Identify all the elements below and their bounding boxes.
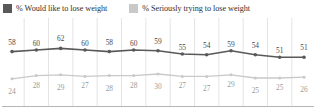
data-point-marker[interactable] [35, 48, 39, 52]
data-label: 60 [130, 40, 137, 48]
data-label: 51 [276, 47, 283, 55]
series-line-seriously-trying [11, 73, 306, 81]
line-chart-widget: % Would like to lose weight % Seriously … [0, 0, 316, 109]
data-point-marker[interactable] [59, 47, 63, 51]
data-label: 58 [106, 39, 113, 47]
data-point-marker[interactable] [230, 73, 233, 76]
data-point-marker[interactable] [278, 77, 281, 80]
data-label: 30 [154, 83, 161, 91]
data-point-marker[interactable] [132, 74, 135, 77]
chart-canvas [0, 18, 316, 109]
data-label: 58 [8, 39, 15, 47]
legend-swatch-icon [129, 4, 138, 13]
plot-area: 58606260586059555459545151 2428292728283… [0, 18, 316, 109]
data-point-marker[interactable] [84, 75, 87, 78]
data-label: 25 [276, 84, 283, 92]
data-point-marker[interactable] [11, 77, 14, 80]
data-label: 27 [81, 82, 88, 90]
data-label: 28 [33, 82, 40, 90]
data-label: 27 [203, 85, 210, 93]
data-label: 29 [57, 84, 64, 92]
data-point-marker[interactable] [181, 75, 184, 78]
data-label: 60 [33, 40, 40, 48]
data-point-marker[interactable] [303, 76, 306, 79]
data-label: 27 [179, 82, 186, 90]
legend-item-would-like[interactable]: % Would like to lose weight [3, 0, 107, 16]
data-label: 28 [106, 85, 113, 93]
data-point-marker[interactable] [205, 75, 208, 78]
data-point-marker[interactable] [35, 74, 38, 77]
data-label: 60 [81, 40, 88, 48]
data-point-marker[interactable] [156, 49, 160, 53]
data-point-marker[interactable] [254, 77, 257, 80]
data-point-marker[interactable] [59, 73, 62, 76]
data-label: 29 [227, 81, 234, 89]
data-point-marker[interactable] [229, 49, 233, 53]
data-label: 26 [300, 86, 307, 94]
data-point-marker[interactable] [108, 50, 112, 54]
data-label: 24 [8, 88, 15, 96]
data-label: 25 [252, 87, 259, 95]
data-label: 55 [179, 44, 186, 52]
legend-swatch-icon [3, 4, 12, 13]
data-label: 62 [57, 35, 64, 43]
data-label: 28 [130, 82, 137, 90]
legend-item-label: % Would like to lose weight [16, 4, 107, 13]
data-point-marker[interactable] [302, 55, 306, 59]
data-point-marker[interactable] [157, 73, 160, 76]
data-point-marker[interactable] [132, 48, 136, 52]
data-label: 54 [203, 42, 210, 50]
series-line-would-like [10, 47, 306, 59]
data-label: 59 [227, 41, 234, 49]
legend-item-label: % Seriously trying to lose weight [142, 4, 250, 13]
data-point-marker[interactable] [181, 52, 185, 56]
data-point-marker[interactable] [108, 74, 111, 77]
data-point-marker[interactable] [254, 53, 258, 57]
chart-legend: % Would like to lose weight % Seriously … [0, 0, 316, 16]
data-point-marker[interactable] [205, 53, 209, 57]
data-label: 54 [252, 42, 259, 50]
data-point-marker[interactable] [278, 55, 282, 59]
data-label: 59 [154, 38, 161, 46]
data-point-marker[interactable] [10, 50, 14, 54]
data-label: 51 [300, 44, 307, 52]
data-point-marker[interactable] [83, 48, 87, 52]
legend-item-seriously-trying[interactable]: % Seriously trying to lose weight [129, 0, 250, 16]
